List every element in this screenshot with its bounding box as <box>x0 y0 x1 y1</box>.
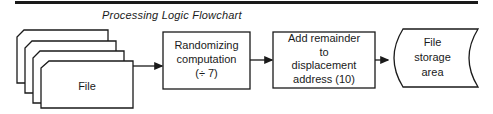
storage-line-1: File <box>400 35 465 50</box>
storage-line-3: area <box>400 65 465 80</box>
randomizing-line-2: computation <box>163 52 250 66</box>
storage-line-2: storage <box>400 50 465 65</box>
add-remainder-label: Add remainder to displacement address (1… <box>273 32 375 86</box>
randomizing-line-3: (÷ 7) <box>163 66 250 80</box>
randomizing-label: Randomizing computation (÷ 7) <box>163 38 250 80</box>
add-remainder-line-1: Add remainder <box>273 32 375 46</box>
add-remainder-line-3: displacement <box>273 59 375 73</box>
file-label: File <box>41 79 133 93</box>
storage-label: File storage area <box>400 35 465 80</box>
add-remainder-line-2: to <box>273 46 375 60</box>
file-cards-stack <box>17 30 133 108</box>
randomizing-line-1: Randomizing <box>163 38 250 52</box>
add-remainder-line-4: address (10) <box>273 73 375 87</box>
